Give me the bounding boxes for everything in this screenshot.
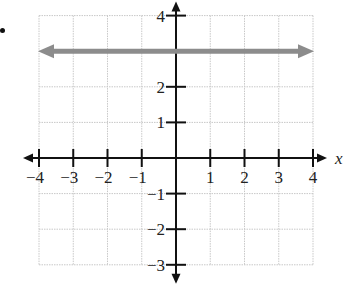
x-axis-left-arrow-icon	[23, 154, 33, 163]
x-axis-label: x	[334, 149, 343, 168]
axes	[23, 2, 327, 284]
x-tick-label: −4	[26, 168, 45, 187]
x-tick-label: 3	[275, 168, 284, 187]
y-axis-up-arrow-icon	[172, 2, 181, 12]
coordinate-plane: −4−3−2−11234−3−2−1124x	[0, 0, 343, 291]
x-tick-label: −2	[94, 168, 112, 187]
y-tick-label: −2	[147, 220, 165, 239]
y-axis-down-arrow-icon	[172, 274, 181, 284]
line-right-arrow-icon	[298, 44, 314, 58]
x-tick-label: 2	[240, 168, 249, 187]
y-tick-label: −3	[147, 256, 165, 275]
x-tick-label: −3	[60, 168, 78, 187]
y-tick-label: −1	[147, 185, 165, 204]
x-tick-label: 1	[206, 168, 215, 187]
x-tick-label: 4	[309, 168, 318, 187]
y-tick-label: 1	[157, 113, 166, 132]
y-tick-label: 4	[157, 7, 166, 26]
x-axis-right-arrow-icon	[317, 154, 327, 163]
y-tick-label: 2	[157, 78, 166, 97]
x-tick-label: −1	[129, 168, 147, 187]
line-left-arrow-icon	[38, 44, 54, 58]
